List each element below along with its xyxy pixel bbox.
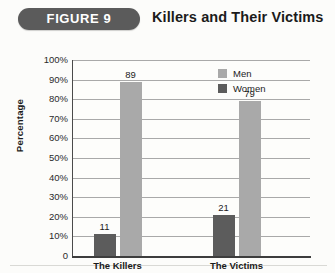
bar-value-label: 89 (114, 69, 148, 80)
bar-women-the-victims (213, 215, 235, 256)
legend-label-women: Women (233, 83, 266, 94)
legend-label-men: Men (233, 68, 251, 79)
legend-item-men: Men (218, 66, 304, 81)
x-axis-line (72, 256, 311, 258)
chart-legend: Men Women (218, 66, 304, 96)
y-axis-tick-label: 70% (22, 113, 68, 124)
bar-men-the-killers (120, 82, 142, 256)
legend-swatch-women-icon (218, 84, 227, 93)
bar-value-label: 11 (88, 221, 122, 232)
y-axis-tick-label: 40% (22, 172, 68, 183)
gridline (72, 197, 310, 198)
bar-men-the-victims (239, 101, 261, 256)
gridline (72, 217, 310, 218)
gridline (72, 60, 310, 61)
figure-title: Killers and Their Victims (152, 9, 323, 25)
x-axis-category-label: The Victims (202, 260, 272, 271)
y-axis-tick-label: 30% (22, 191, 68, 202)
y-axis-line (72, 60, 73, 257)
bar-chart: Percentage 010%20%30%40%50%60%70%80%90%1… (0, 38, 335, 266)
y-axis-tick-label: 80% (22, 93, 68, 104)
y-axis-tick-label: 0 (22, 250, 68, 261)
figure-number-banner: FIGURE 9 (18, 8, 140, 30)
gridline (72, 119, 310, 120)
y-axis-tick-label: 60% (22, 132, 68, 143)
figure-header: FIGURE 9 Killers and Their Victims (0, 6, 335, 32)
legend-item-women: Women (218, 81, 304, 96)
y-axis-tick-label: 10% (22, 230, 68, 241)
y-axis-tick-label: 90% (22, 74, 68, 85)
y-axis-tick-label: 50% (22, 152, 68, 163)
y-axis-tick-label: 20% (22, 211, 68, 222)
figure-number-label: FIGURE 9 (18, 11, 140, 26)
gridline (72, 99, 310, 100)
bar-women-the-killers (94, 234, 116, 256)
y-axis-tick-label: 100% (22, 54, 68, 65)
y-axis-tick-labels: 010%20%30%40%50%60%70%80%90%100% (18, 60, 68, 256)
x-axis-category-label: The Killers (83, 260, 153, 271)
gridline (72, 178, 310, 179)
gridline (72, 158, 310, 159)
bar-value-label: 21 (207, 202, 241, 213)
gridline (72, 138, 310, 139)
legend-swatch-men-icon (218, 69, 227, 78)
